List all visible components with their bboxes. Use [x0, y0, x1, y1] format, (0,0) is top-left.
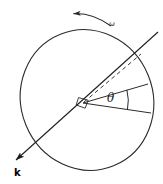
theta-label: θ: [107, 92, 114, 104]
right-angle-marker: [76, 98, 88, 109]
disk-ellipse: [0, 9, 163, 184]
theta-upper-ray: [83, 84, 148, 103]
diagram-svg: [0, 0, 163, 184]
omega-label: ω: [109, 21, 115, 28]
k-vector-label: k: [14, 168, 21, 178]
rotation-arrow: [74, 14, 112, 26]
k-vector-line: [16, 32, 158, 160]
theta-lower-ray: [83, 103, 151, 113]
theta-arc: [127, 90, 128, 110]
figure-canvas: ω θ k: [0, 0, 163, 184]
